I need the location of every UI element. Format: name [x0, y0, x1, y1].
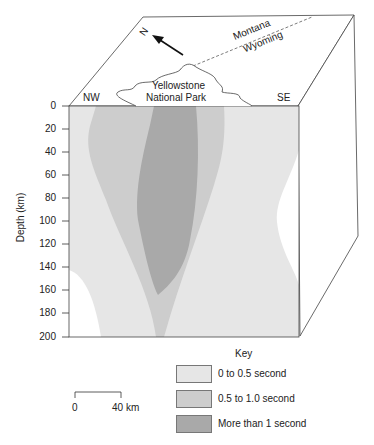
key-swatch-medium — [176, 390, 212, 408]
side-label-nw: NW — [83, 92, 100, 103]
scale-end: 40 km — [112, 402, 139, 413]
key-swatch-high — [176, 415, 212, 433]
side-label-se: SE — [277, 92, 290, 103]
key-label-high: More than 1 second — [218, 418, 306, 429]
y-axis-label: Depth (km) — [15, 193, 26, 242]
y-tick: 180 — [28, 307, 56, 318]
key-title: Key — [235, 348, 252, 359]
y-tick: 40 — [28, 146, 56, 157]
scale-bar — [75, 392, 121, 398]
park-label-line2: National Park — [146, 92, 206, 103]
key-label-low: 0 to 0.5 second — [218, 368, 286, 379]
y-tick: 120 — [28, 238, 56, 249]
y-tick: 140 — [28, 261, 56, 272]
y-tick: 100 — [28, 215, 56, 226]
y-tick: 200 — [28, 331, 56, 342]
y-tick: 160 — [28, 284, 56, 295]
y-axis-ticks — [62, 106, 69, 337]
key-label-medium: 0.5 to 1.0 second — [218, 393, 295, 404]
park-label-line1: Yellowstone — [152, 80, 205, 91]
y-tick: 20 — [28, 123, 56, 134]
y-tick: 0 — [28, 100, 56, 111]
key-swatch-low — [176, 365, 212, 383]
y-tick: 80 — [28, 192, 56, 203]
y-tick: 60 — [28, 169, 56, 180]
scale-start: 0 — [72, 402, 78, 413]
